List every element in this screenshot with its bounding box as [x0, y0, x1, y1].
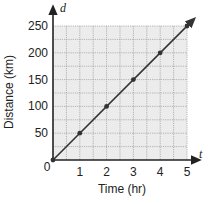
data-point [77, 131, 82, 136]
x-tick-label: 0 [44, 160, 51, 174]
y-tick-labels: 50100150200250 [28, 19, 48, 140]
x-tick-label: 2 [103, 165, 110, 179]
y-tick-label: 50 [35, 126, 49, 140]
data-point [158, 50, 163, 55]
y-tick-label: 100 [28, 99, 48, 113]
data-point [131, 77, 136, 82]
y-tick-label: 250 [28, 19, 48, 33]
x-axis-label: Time (hr) [98, 182, 146, 196]
x-tick-label: 1 [76, 165, 83, 179]
x-tick-labels: 012345 [44, 160, 191, 179]
data-point [51, 158, 56, 163]
data-point [104, 104, 109, 109]
y-tick-label: 150 [28, 73, 48, 87]
x-tick-label: 3 [130, 165, 137, 179]
y-tick-label: 200 [28, 46, 48, 60]
y-axis-label: Distance (km) [2, 55, 16, 129]
x-axis-variable: t [199, 147, 203, 161]
distance-time-chart: 012345 50100150200250 t d Time (hr) Dist… [0, 0, 211, 204]
x-tick-label: 4 [157, 165, 164, 179]
y-axis-variable: d [60, 1, 67, 15]
x-tick-label: 5 [184, 165, 191, 179]
data-point [185, 24, 190, 29]
